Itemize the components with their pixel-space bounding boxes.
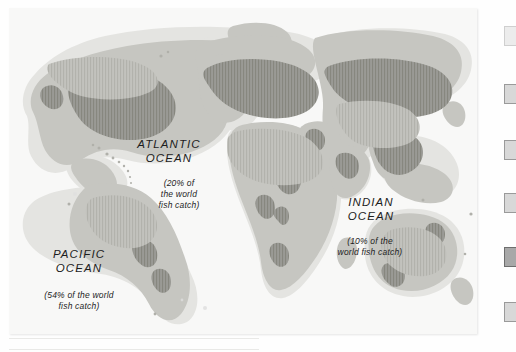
- map-label-indian-ocean: INDIAN OCEAN: [321, 196, 421, 223]
- map-label-pacific-fish-catch: (54% of the world fish catch): [19, 290, 139, 312]
- map-label-indian-fish-catch: (10% of the world fish catch): [309, 236, 431, 258]
- page-rule-upper: [9, 338, 259, 339]
- world-map-figure: PACIFIC OCEAN (54% of the world fish cat…: [9, 8, 477, 334]
- edge-box-5[interactable]: [504, 247, 516, 267]
- map-label-atlantic-fish-catch: (20% of the world fish catch): [137, 178, 221, 211]
- edge-box-6[interactable]: [504, 302, 516, 322]
- page-rule-lower: [9, 349, 259, 350]
- page-root: PACIFIC OCEAN (54% of the world fish cat…: [0, 0, 516, 352]
- edge-box-1[interactable]: [504, 26, 516, 46]
- world-map-graphic: [9, 8, 477, 334]
- edge-box-2[interactable]: [504, 84, 516, 104]
- edge-box-3[interactable]: [504, 140, 516, 160]
- edge-box-4[interactable]: [504, 193, 516, 213]
- map-label-atlantic-ocean: ATLANTIC OCEAN: [113, 138, 225, 165]
- map-label-pacific-ocean: PACIFIC OCEAN: [27, 248, 131, 275]
